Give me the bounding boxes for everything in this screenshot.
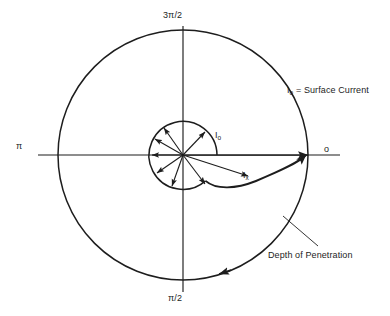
spiral-path bbox=[206, 155, 307, 187]
vector-label-io: Io bbox=[215, 131, 221, 140]
annotation-surface-current: Io = Surface Current bbox=[287, 86, 369, 95]
phasor-vector-305 bbox=[183, 155, 205, 184]
phasor-vector-150 bbox=[155, 139, 183, 155]
annotation-surface-current-subscript: o bbox=[290, 89, 294, 96]
phasor-vector-125 bbox=[164, 128, 183, 155]
axis-label-top: 3π/2 bbox=[163, 11, 182, 20]
phasor-vector-333 bbox=[183, 155, 248, 176]
vector-label-ix: Ix bbox=[243, 171, 249, 180]
radial-phasor-vectors bbox=[152, 128, 308, 186]
axis-label-right: o bbox=[324, 145, 329, 154]
phasor-vector-55 bbox=[183, 132, 205, 155]
annotation-surface-current-text: = Surface Current bbox=[293, 85, 369, 95]
vector-label-ix-subscript: x bbox=[246, 174, 249, 181]
polar-current-penetration-diagram bbox=[0, 0, 390, 316]
phasor-vector-270 bbox=[172, 155, 183, 186]
axis-label-left: π bbox=[16, 142, 22, 151]
vector-label-io-subscript: o bbox=[218, 134, 222, 141]
current-spiral-curve bbox=[206, 155, 307, 187]
phasor-vector-215 bbox=[157, 155, 183, 173]
axis-label-bottom: π/2 bbox=[168, 294, 182, 303]
depth-of-penetration-leader-line bbox=[283, 216, 318, 246]
annotation-depth-of-penetration: Depth of Penetration bbox=[268, 251, 353, 260]
